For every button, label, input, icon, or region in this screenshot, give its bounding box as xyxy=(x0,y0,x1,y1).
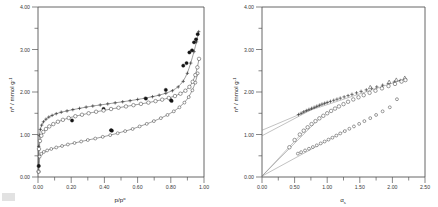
fit-line-origin-c xyxy=(262,130,347,176)
isotherm-ytick-3: 3.00 xyxy=(20,47,30,53)
isotherm-xtick-1: 0.20 xyxy=(66,184,76,190)
marker-open-circle xyxy=(188,85,192,89)
alpha-s-y-ticks xyxy=(256,7,262,177)
alpha-s-ylabel-rest-sup: -1 xyxy=(232,77,237,81)
marker-open-circle xyxy=(342,102,346,106)
alpha-s-ytick-0: 0.00 xyxy=(244,174,254,180)
marker-open-circle xyxy=(102,109,106,113)
marker-open-circle xyxy=(404,78,408,82)
isotherm-x-ticklabels: 0.00 0.20 0.40 0.60 0.80 1.00 xyxy=(33,184,209,190)
isotherm-xtick-2: 0.40 xyxy=(99,184,109,190)
marker-open-circle xyxy=(380,87,384,91)
marker-open-circle xyxy=(388,106,391,109)
marker-open-circle xyxy=(74,114,78,118)
marker-open-circle xyxy=(178,106,181,109)
axis-frame-left xyxy=(38,7,204,177)
marker-plus xyxy=(91,104,94,107)
isotherm-ytick-0: 0.00 xyxy=(20,174,30,180)
marker-open-circle xyxy=(87,112,91,116)
alpha-s-sample-B-markers xyxy=(288,78,408,149)
marker-plus xyxy=(335,98,338,101)
marker-open-circle xyxy=(333,107,337,111)
marker-open-circle xyxy=(48,125,52,129)
alpha-s-ytick-4: 4.00 xyxy=(244,4,254,10)
isotherm-datapoints xyxy=(37,30,201,173)
marker-open-circle xyxy=(42,150,45,153)
marker-open-circle xyxy=(352,125,355,128)
sample-B-adsorption-markers xyxy=(37,57,201,173)
alpha-s-xtick-0: 0.00 xyxy=(257,184,267,190)
isotherm-xtick-3: 0.60 xyxy=(133,184,143,190)
marker-open-circle xyxy=(358,122,361,125)
marker-open-circle xyxy=(322,114,326,118)
isotherm-xlabel-sup: o xyxy=(123,196,126,201)
marker-open-circle xyxy=(314,119,318,123)
marker-plus xyxy=(65,109,68,112)
marker-open-circle xyxy=(197,57,201,61)
marker-open-circle xyxy=(374,89,378,93)
marker-plus xyxy=(136,98,139,101)
isotherm-ytick-1: 1.00 xyxy=(20,132,30,138)
isotherm-y-ticks xyxy=(32,7,38,177)
marker-plus xyxy=(359,90,362,93)
marker-open-circle xyxy=(159,117,162,120)
marker-open-circle xyxy=(362,93,366,97)
marker-open-circle xyxy=(343,130,346,133)
marker-open-circle xyxy=(300,151,303,154)
marker-open-circle xyxy=(145,122,148,125)
marker-open-circle xyxy=(331,136,334,139)
marker-filled-circle xyxy=(194,38,197,41)
marker-plus xyxy=(186,72,189,75)
marker-open-circle xyxy=(86,139,89,142)
marker-filled-circle xyxy=(196,33,199,36)
marker-open-circle xyxy=(381,110,384,113)
marker-plus xyxy=(339,96,342,99)
marker-plus xyxy=(365,88,368,91)
isotherm-ylabel-rest-sup: -1 xyxy=(8,77,13,81)
alpha-s-xtick-5: 2.50 xyxy=(420,184,430,190)
isotherm-curves xyxy=(38,32,199,172)
marker-open-circle xyxy=(318,117,322,121)
marker-plus xyxy=(113,101,116,104)
isotherm-xtick-0: 0.00 xyxy=(33,184,43,190)
marker-open-circle xyxy=(132,103,136,107)
marker-open-circle xyxy=(335,134,338,137)
marker-triangle xyxy=(387,80,391,83)
marker-open-circle xyxy=(152,120,155,123)
marker-open-circle xyxy=(196,72,199,75)
isotherm-ylabel-rest: / mmol g xyxy=(8,81,15,105)
marker-plus xyxy=(78,107,81,110)
alpha-s-y-axis-label: na / mmol g-1 xyxy=(232,77,239,113)
isotherm-xtick-4: 0.80 xyxy=(166,184,176,190)
marker-open-circle xyxy=(73,142,76,145)
marker-open-circle xyxy=(183,101,186,104)
marker-plus xyxy=(355,91,358,94)
marker-plus xyxy=(329,100,332,103)
marker-open-circle xyxy=(323,140,326,143)
alpha-s-y-ticklabels: 0.00 1.00 2.00 3.00 4.00 xyxy=(244,4,254,180)
alpha-s-datapoints xyxy=(288,76,408,155)
marker-plus xyxy=(40,123,43,126)
marker-open-circle xyxy=(37,147,41,151)
marker-open-circle xyxy=(368,91,372,95)
marker-open-circle xyxy=(42,130,46,134)
marker-open-circle xyxy=(94,137,97,140)
marker-open-circle xyxy=(179,92,183,96)
isotherm-ytick-2: 2.00 xyxy=(20,89,30,95)
marker-open-circle xyxy=(327,138,330,141)
marker-open-circle xyxy=(56,120,60,124)
marker-plus xyxy=(189,61,192,64)
marker-open-circle xyxy=(138,125,141,128)
panel-isotherm: 0.00 1.00 2.00 3.00 4.00 xyxy=(0,0,219,207)
marker-plus xyxy=(350,93,353,96)
fit-line-mid-intercept xyxy=(262,105,321,136)
isotherm-x-axis-label: p/po xyxy=(115,196,127,203)
marker-plus xyxy=(71,108,74,111)
marker-open-circle xyxy=(396,98,399,101)
marker-filled-circle xyxy=(144,97,147,100)
marker-open-circle xyxy=(346,100,350,104)
marker-open-circle xyxy=(50,148,53,151)
isotherm-x-ticks xyxy=(38,177,204,183)
marker-plus xyxy=(326,101,329,104)
marker-open-circle xyxy=(339,132,342,135)
